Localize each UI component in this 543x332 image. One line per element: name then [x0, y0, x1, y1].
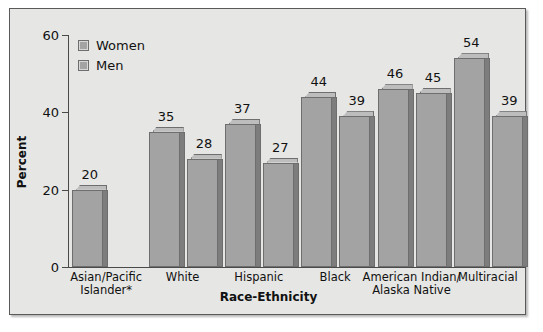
x-category-label-line: White: [166, 271, 199, 284]
y-tick-label-20: 20: [42, 183, 59, 196]
bar-value-label: 35: [151, 110, 182, 123]
bar-side-face: [218, 159, 223, 267]
y-tick-40: [62, 112, 68, 113]
bar-side-face: [256, 124, 261, 267]
bar-men-4: [416, 93, 447, 267]
bar-front-face: [187, 159, 218, 267]
bar-side-face: [332, 97, 337, 267]
bar-top-face: [76, 185, 107, 190]
x-category-label-line: Black: [320, 271, 351, 284]
bar-front-face: [339, 116, 370, 267]
bar-front-face: [454, 58, 485, 267]
bar-top-face: [420, 88, 451, 93]
bar-front-face: [416, 93, 447, 267]
y-tick-0: [62, 267, 68, 268]
bar-front-face: [72, 190, 103, 267]
bar-women-4: [378, 89, 409, 267]
bar-value-label: 54: [456, 36, 487, 49]
bar-value-label: 39: [341, 94, 372, 107]
bar-top-face: [382, 84, 413, 89]
x-category-label-5: Multiracial: [458, 271, 518, 284]
bar-top-face: [153, 127, 184, 132]
bar-value-label: 45: [418, 71, 449, 84]
bar-value-label: 39: [494, 94, 525, 107]
bar-value-label: 28: [189, 137, 220, 150]
bar-front-face: [225, 124, 256, 267]
bar-side-face: [409, 89, 414, 267]
y-tick-label-60: 60: [42, 29, 59, 42]
y-tick-20: [62, 190, 68, 191]
y-axis-top-cap: [68, 35, 69, 40]
bar-top-face: [496, 111, 527, 116]
y-tick-60: [62, 35, 68, 36]
y-axis-line: [68, 35, 69, 267]
bar-top-face: [458, 53, 489, 58]
bar-top-face: [305, 92, 336, 97]
legend: Women Men: [78, 39, 145, 79]
bar-front-face: [263, 163, 294, 267]
x-category-label-line: Multiracial: [458, 271, 518, 284]
bar-men-5: [492, 116, 523, 267]
bar-women-2: [225, 124, 256, 267]
bar-side-face: [180, 132, 185, 267]
bar-top-face: [191, 154, 222, 159]
chart-figure: Percent 0204060 2035283727443946455439 A…: [9, 8, 526, 315]
bar-women-1: [149, 132, 180, 267]
x-category-label-3: Black: [320, 271, 351, 284]
bar-side-face: [485, 58, 490, 267]
bar-front-face: [301, 97, 332, 267]
bar-women-0: [72, 190, 103, 267]
y-tick-label-40: 40: [42, 106, 59, 119]
legend-item-women: Women: [78, 39, 145, 52]
x-category-label-1: White: [166, 271, 199, 284]
bar-women-3: [301, 97, 332, 267]
bar-top-face: [267, 158, 298, 163]
bar-men-3: [339, 116, 370, 267]
bar-side-face: [103, 190, 108, 267]
y-axis-title: Percent: [15, 135, 29, 187]
bar-value-label: 20: [74, 168, 105, 181]
bar-value-label: 27: [265, 141, 296, 154]
bar-front-face: [492, 116, 523, 267]
y-tick-label-0: 0: [51, 261, 59, 274]
bar-front-face: [149, 132, 180, 267]
x-axis-line: [68, 267, 526, 268]
legend-swatch-men: [78, 60, 89, 71]
bar-side-face: [447, 93, 452, 267]
bar-value-label: 46: [380, 67, 411, 80]
bar-side-face: [523, 116, 528, 267]
bar-women-5: [454, 58, 485, 267]
legend-swatch-women: [78, 40, 89, 51]
bar-men-2: [263, 163, 294, 267]
bar-side-face: [370, 116, 375, 267]
x-category-label-2: Hispanic: [234, 271, 283, 284]
bar-top-face: [343, 111, 374, 116]
bar-value-label: 44: [303, 75, 334, 88]
bar-top-face: [229, 119, 260, 124]
x-category-label-line: Hispanic: [234, 271, 283, 284]
legend-item-men: Men: [78, 59, 145, 72]
x-axis-title: Race-Ethnicity: [10, 290, 527, 304]
legend-label-women: Women: [96, 39, 145, 52]
bar-value-label: 37: [227, 102, 258, 115]
legend-label-men: Men: [96, 59, 123, 72]
bar-men-1: [187, 159, 218, 267]
bar-side-face: [294, 163, 299, 267]
bar-front-face: [378, 89, 409, 267]
